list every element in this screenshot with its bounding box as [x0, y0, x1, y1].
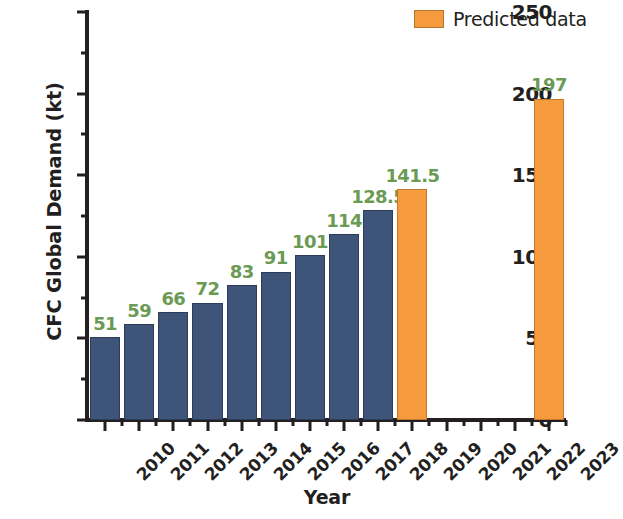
x-tick-minor — [223, 420, 226, 426]
x-tick-label: 2016 — [337, 438, 383, 484]
x-tick-minor — [257, 420, 260, 426]
x-tick-major — [138, 420, 141, 431]
x-tick-label: 2012 — [201, 438, 247, 484]
bar-2017 — [329, 234, 359, 420]
bar-value-label-2012: 66 — [161, 288, 185, 309]
bar-2014 — [227, 285, 257, 420]
x-tick-minor — [530, 420, 533, 426]
x-tick-minor — [394, 420, 397, 426]
x-tick-major — [104, 420, 107, 431]
bar-value-label-2019: 141.5 — [385, 165, 439, 186]
legend: Predicted data — [414, 8, 587, 30]
x-tick-label: 2019 — [440, 438, 486, 484]
x-tick-label: 2013 — [235, 438, 281, 484]
x-tick-minor — [326, 420, 329, 426]
bar-2012 — [158, 312, 188, 420]
bar-value-label-2013: 72 — [196, 278, 220, 299]
x-tick-major — [445, 420, 448, 431]
x-tick-major — [377, 420, 380, 431]
x-tick-minor — [428, 420, 431, 426]
x-tick-label: 2022 — [542, 438, 588, 484]
x-tick-minor — [360, 420, 363, 426]
bar-value-label-2010: 51 — [93, 313, 117, 334]
x-tick-minor — [462, 420, 465, 426]
x-tick-minor — [565, 420, 568, 426]
legend-swatch-predicted — [414, 10, 444, 28]
x-tick-minor — [155, 420, 158, 426]
y-tick-minor — [81, 51, 88, 54]
x-tick-major — [547, 420, 550, 431]
bar-2019 — [397, 189, 427, 420]
x-axis-title: Year — [88, 486, 566, 508]
x-tick-label: 2020 — [474, 438, 520, 484]
bar-2016 — [295, 255, 325, 420]
y-tick-major — [77, 92, 88, 95]
bar-value-label-2015: 91 — [264, 247, 288, 268]
bar-2013 — [192, 303, 222, 421]
bar-2015 — [261, 272, 291, 421]
x-tick-label: 2010 — [132, 438, 178, 484]
bar-2023 — [534, 99, 564, 421]
y-tick-major — [77, 255, 88, 258]
bar-value-label-2011: 59 — [127, 300, 151, 321]
x-tick-major — [513, 420, 516, 431]
bar-2011 — [124, 324, 154, 420]
x-tick-major — [479, 420, 482, 431]
x-tick-minor — [496, 420, 499, 426]
y-tick-major — [77, 174, 88, 177]
bar-2018 — [363, 210, 393, 420]
x-tick-major — [172, 420, 175, 431]
x-tick-major — [274, 420, 277, 431]
x-tick-minor — [121, 420, 124, 426]
y-tick-major — [77, 419, 88, 422]
x-tick-label: 2023 — [576, 438, 622, 484]
x-tick-label: 2014 — [269, 438, 315, 484]
x-tick-major — [206, 420, 209, 431]
legend-label-predicted: Predicted data — [453, 8, 587, 30]
bar-value-label-2014: 83 — [230, 261, 254, 282]
y-tick-minor — [81, 378, 88, 381]
y-tick-minor — [81, 296, 88, 299]
y-tick-major — [77, 337, 88, 340]
y-tick-minor — [81, 215, 88, 218]
x-tick-label: 2011 — [167, 438, 213, 484]
x-tick-major — [343, 420, 346, 431]
plot-area: 050100150200250 515966728391101114128.51… — [88, 12, 566, 420]
x-tick-label: 2018 — [406, 438, 452, 484]
x-tick-minor — [291, 420, 294, 426]
y-tick-minor — [81, 133, 88, 136]
bar-value-label-2017: 114 — [326, 210, 362, 231]
x-tick-major — [411, 420, 414, 431]
x-tick-minor — [189, 420, 192, 426]
x-tick-major — [308, 420, 311, 431]
bar-value-label-2016: 101 — [292, 231, 328, 252]
x-tick-label: 2015 — [303, 438, 349, 484]
x-tick-label: 2017 — [371, 438, 417, 484]
y-tick-major — [77, 11, 88, 14]
bar-2010 — [90, 337, 120, 420]
bar-value-label-2023: 197 — [531, 74, 567, 95]
x-tick-major — [240, 420, 243, 431]
y-axis-title: CFC Global Demand (kt) — [43, 52, 66, 372]
